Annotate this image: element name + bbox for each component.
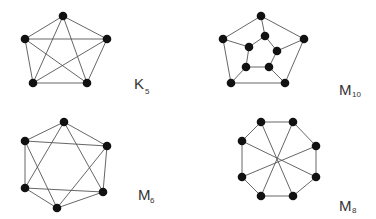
graph-edge bbox=[63, 16, 87, 83]
k5-label: K bbox=[134, 75, 144, 92]
graph-edge bbox=[293, 122, 316, 146]
graph-node bbox=[227, 79, 236, 88]
graph-edge bbox=[87, 39, 107, 83]
graph-node bbox=[273, 47, 282, 56]
graph-edge bbox=[25, 141, 107, 146]
graph-node bbox=[29, 79, 38, 88]
graph-node bbox=[21, 137, 30, 146]
graph-node bbox=[219, 35, 228, 44]
graph-node bbox=[312, 142, 321, 151]
k5-nodes bbox=[21, 12, 112, 88]
graph-node bbox=[289, 118, 298, 127]
m10-label-subscript: 10 bbox=[352, 90, 361, 99]
m8-edges bbox=[242, 122, 316, 196]
graph-m10: M 10 bbox=[219, 12, 362, 99]
graph-edge bbox=[293, 177, 316, 196]
m6-nodes bbox=[21, 118, 112, 213]
graph-node bbox=[53, 204, 62, 213]
graph-node bbox=[238, 173, 247, 182]
m10-nodes bbox=[219, 12, 309, 88]
graph-edge bbox=[33, 39, 107, 83]
m8-label-subscript: 8 bbox=[352, 206, 357, 215]
graph-node bbox=[265, 63, 274, 72]
graph-edge bbox=[242, 141, 316, 177]
graph-m8: M 8 bbox=[238, 118, 357, 215]
graph-node bbox=[257, 118, 266, 127]
graph-node bbox=[103, 142, 112, 151]
graph-node bbox=[59, 12, 68, 21]
graph-node bbox=[257, 192, 266, 201]
graph-node bbox=[242, 63, 251, 72]
m6-label: M bbox=[138, 186, 151, 203]
graph-edge bbox=[25, 188, 103, 192]
graph-m6: M 6 bbox=[21, 118, 155, 213]
m6-edges bbox=[25, 122, 107, 208]
graph-node bbox=[245, 43, 254, 52]
graph-node bbox=[281, 79, 290, 88]
graph-node bbox=[261, 32, 270, 41]
k5-edges bbox=[25, 16, 107, 83]
graph-node bbox=[238, 137, 247, 146]
graph-node bbox=[21, 184, 30, 193]
graph-node bbox=[257, 12, 266, 21]
graph-edge bbox=[25, 39, 87, 83]
graph-edge bbox=[103, 146, 107, 192]
graph-node bbox=[300, 35, 309, 44]
graph-figure: K 5 M 10 M 6 M 8 bbox=[0, 0, 376, 219]
graph-edge bbox=[57, 146, 107, 208]
k5-label-subscript: 5 bbox=[145, 87, 150, 96]
graph-edge bbox=[25, 39, 33, 83]
graph-k5: K 5 bbox=[21, 12, 150, 96]
graph-node bbox=[103, 35, 112, 44]
m6-label-subscript: 6 bbox=[150, 196, 155, 205]
graph-edge bbox=[285, 39, 304, 83]
graph-node bbox=[60, 118, 69, 127]
graph-node bbox=[99, 188, 108, 197]
graph-node bbox=[83, 79, 92, 88]
m8-label: M bbox=[339, 197, 352, 214]
graph-node bbox=[312, 173, 321, 182]
graph-edge bbox=[242, 146, 316, 177]
graph-node bbox=[21, 35, 30, 44]
graph-edge bbox=[33, 16, 63, 83]
m10-label: M bbox=[339, 81, 352, 98]
m10-edges bbox=[223, 16, 304, 83]
graph-edge bbox=[25, 16, 63, 39]
graph-node bbox=[289, 192, 298, 201]
graph-edge bbox=[223, 16, 261, 39]
graph-edge bbox=[223, 39, 231, 83]
